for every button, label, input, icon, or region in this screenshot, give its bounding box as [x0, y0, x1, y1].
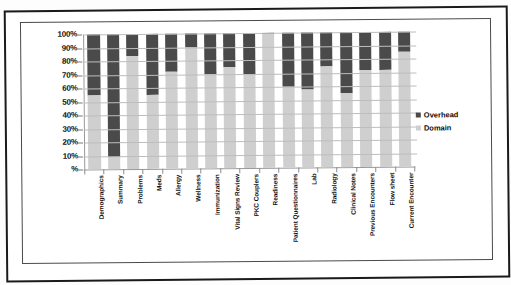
chart: 100%90%80%70%60%50%40%30%20%10%% Demogra… — [23, 20, 487, 258]
y-axis-tick-label: 40% — [62, 112, 77, 120]
bar-segment-domain — [379, 70, 392, 167]
y-axis-tick-label: 50% — [62, 98, 77, 106]
x-axis-label-slot: Current Encounter — [408, 173, 409, 251]
bar-segment-domain — [321, 66, 334, 167]
y-axis-tick-label: 100% — [57, 31, 77, 39]
x-axis-tick-label: Patient Questionnaires — [291, 174, 299, 243]
x-axis-tick-mark — [337, 167, 338, 172]
y-axis-tick-mark — [78, 156, 83, 157]
x-axis-label-slot: Previous Encounters — [369, 173, 370, 251]
x-axis-tick-label: Summary — [116, 175, 123, 204]
x-axis-label-slot: Demographics — [97, 175, 98, 253]
y-axis-tick-label: 80% — [62, 58, 77, 66]
y-axis-tick-label: % — [71, 166, 78, 174]
x-axis-tick-mark — [104, 169, 105, 174]
bar-segment-overhead — [243, 33, 255, 74]
bar-segment-domain — [224, 67, 237, 168]
y-axis-tick-mark — [77, 35, 82, 36]
x-axis-label-slot: Flow sheet — [388, 173, 389, 251]
y-axis-tick-mark — [78, 102, 83, 103]
x-axis-tick-mark — [259, 168, 260, 173]
legend-label: Overhead — [424, 110, 459, 119]
x-axis-tick-label: Wellness — [194, 174, 201, 201]
x-axis-tick-mark — [375, 167, 376, 172]
bar-segment-domain — [398, 52, 411, 167]
bar-segment-overhead — [379, 32, 391, 70]
bar-segment-domain — [88, 95, 101, 169]
bar-segment-domain — [340, 93, 353, 167]
x-axis-label-slot: Readiness — [272, 174, 273, 252]
bar-segment-overhead — [146, 34, 159, 95]
x-axis-tick-mark — [240, 168, 241, 173]
legend-swatch-icon — [416, 126, 421, 131]
x-axis-label-slot: Problems — [136, 175, 137, 253]
bar-segment-overhead — [185, 34, 197, 48]
x-axis-tick-mark — [395, 167, 396, 172]
y-axis: 100%90%80%70%60%50%40%30%20%10%% — [23, 23, 84, 174]
x-axis-label-slot: Wellness — [194, 175, 195, 253]
x-axis-tick-mark — [278, 168, 279, 173]
x-axis-tick-label: Problems — [136, 175, 143, 204]
x-axis-tick-label: Previous Encounters — [369, 173, 377, 236]
x-axis-label-slot: Summary — [116, 175, 117, 253]
x-axis-tick-mark — [317, 167, 318, 172]
x-axis-tick-mark — [201, 168, 202, 173]
bar-segment-overhead — [320, 32, 332, 66]
y-axis-tick-mark — [78, 116, 83, 117]
y-axis-tick-mark — [78, 129, 83, 130]
x-axis-tick-label: Immunization — [213, 174, 220, 215]
scanned-page: 100%90%80%70%60%50%40%30%20%10%% Demogra… — [0, 0, 511, 285]
bar-segment-overhead — [107, 34, 120, 157]
bar-segment-overhead — [398, 32, 410, 52]
bar-segment-overhead — [204, 33, 216, 74]
x-axis-label-slot: Patient Questionnaires — [291, 174, 292, 252]
x-axis-tick-label: Lab — [311, 173, 318, 184]
legend-swatch-icon — [416, 113, 421, 118]
bar-segment-domain — [108, 157, 120, 169]
x-axis-label-slot: PKC Couplers — [252, 174, 253, 252]
x-axis-label-slot: Allergy — [175, 175, 176, 253]
bar-segment-domain — [185, 47, 198, 169]
x-axis-label-slot: Clinical Notes — [349, 173, 350, 251]
x-axis-tick-mark — [181, 169, 182, 174]
legend-item[interactable]: Overhead — [416, 110, 480, 120]
bar-segment-domain — [146, 95, 159, 169]
x-axis-label-slot: Meds — [155, 175, 156, 253]
x-axis-tick-label: Meds — [155, 175, 162, 191]
x-axis-label-slot: Immunization — [213, 174, 214, 252]
chart-legend: OverheadDomain — [416, 110, 480, 137]
x-axis-tick-mark — [123, 169, 124, 174]
x-axis-tick-label: Readiness — [272, 174, 279, 206]
y-axis-tick-label: 90% — [62, 44, 77, 52]
x-axis-tick-label: Demographics — [97, 175, 104, 219]
x-axis-labels: DemographicsSummaryProblemsMedsAllergyWe… — [84, 173, 415, 254]
bar-segment-domain — [127, 56, 140, 169]
x-axis-tick-mark — [298, 168, 299, 173]
x-axis-tick-mark — [220, 168, 221, 173]
bar-segment-overhead — [223, 33, 235, 67]
legend-label: Domain — [424, 123, 452, 132]
y-axis-tick-mark — [78, 143, 83, 144]
x-axis-label-slot: Vital Signs Review — [233, 174, 234, 252]
legend-item[interactable]: Domain — [416, 123, 480, 133]
y-axis-tick-mark — [77, 62, 82, 63]
x-axis-tick-mark — [162, 169, 163, 174]
bar-segment-overhead — [340, 32, 353, 93]
bar-segment-overhead — [88, 34, 101, 95]
y-axis-tick-mark — [77, 48, 82, 49]
x-axis-label-slot: Radiology — [330, 173, 331, 251]
y-axis-tick-label: 30% — [62, 125, 77, 133]
x-axis-tick-label: Allergy — [175, 175, 182, 196]
bar-segment-overhead — [126, 34, 138, 56]
x-axis-label-slot: Lab — [311, 174, 312, 252]
y-axis-tick-label: 10% — [63, 152, 78, 160]
x-axis-tick-label: Flow sheet — [388, 173, 395, 206]
x-axis-tick-label: Clinical Notes — [349, 173, 356, 215]
y-axis-tick-mark — [78, 89, 83, 90]
bar-segment-domain — [166, 71, 179, 168]
x-axis-tick-label: Radiology — [330, 173, 337, 204]
x-axis-tick-mark — [142, 169, 143, 174]
bar-segment-overhead — [301, 33, 314, 90]
y-axis-tick-label: 70% — [62, 71, 77, 79]
y-axis-tick-label: 60% — [62, 85, 77, 93]
